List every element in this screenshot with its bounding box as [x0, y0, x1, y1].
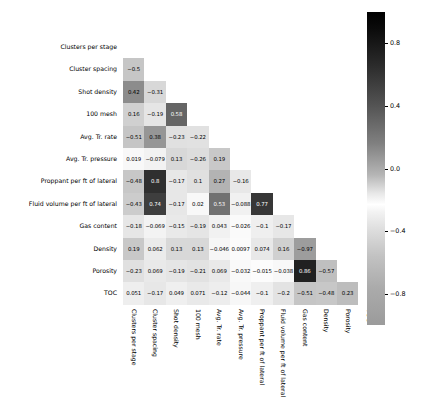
- heatmap-row: −0.480.8−0.170.10.27−0.16: [123, 170, 358, 192]
- heatmap-row: −0.18−0.069−0.15−0.190.043−0.026−0.1−0.1…: [123, 215, 358, 237]
- heatmap-cell-empty: [294, 215, 315, 237]
- heatmap-cell: −0.31: [144, 81, 165, 103]
- heatmap-cell: 0.19: [209, 148, 230, 170]
- correlation-heatmap-figure: Clusters per stageCluster spacingShot de…: [0, 0, 430, 413]
- column-label-slot: Density: [316, 306, 337, 406]
- column-label-slot: Shot density: [166, 306, 187, 406]
- heatmap-cell-empty: [273, 126, 294, 148]
- heatmap-cell-empty: [294, 148, 315, 170]
- heatmap-cell-empty: [294, 36, 315, 58]
- heatmap-cell-empty: [251, 36, 272, 58]
- heatmap-cell-empty: [273, 36, 294, 58]
- row-label: Clusters per stage: [0, 36, 120, 58]
- heatmap-cell-empty: [166, 58, 187, 80]
- column-label: Clusters per stage: [130, 309, 137, 366]
- row-label: Avg. Tr. pressure: [0, 148, 120, 170]
- colorbar-tick-label: 0.8: [390, 39, 400, 47]
- column-label-axis: Clusters per stageCluster spacingShot de…: [123, 306, 380, 406]
- heatmap-cell-empty: [187, 103, 208, 125]
- heatmap-row: [123, 36, 358, 58]
- heatmap-cell-empty: [230, 58, 251, 80]
- heatmap-cell-empty: [294, 81, 315, 103]
- colorbar-tick-label: −0.4: [390, 227, 406, 235]
- heatmap-cell-empty: [209, 81, 230, 103]
- heatmap-cell-empty: [273, 103, 294, 125]
- column-label: Porosity: [344, 309, 351, 334]
- heatmap-row: −0.510.38−0.23−0.22: [123, 126, 358, 148]
- heatmap-cell-empty: [294, 58, 315, 80]
- heatmap-cell-empty: [316, 81, 337, 103]
- heatmap-cell-empty: [251, 81, 272, 103]
- heatmap-cell-empty: [294, 126, 315, 148]
- colorbar-tick: [385, 43, 388, 44]
- column-label-slot: Porosity: [337, 306, 358, 406]
- row-label: Porosity: [0, 260, 120, 282]
- heatmap-row: −0.5: [123, 58, 358, 80]
- heatmap-cell-empty: [251, 103, 272, 125]
- heatmap-matrix: −0.50.42−0.310.16−0.190.58−0.510.38−0.23…: [123, 36, 358, 305]
- heatmap-cell-empty: [230, 81, 251, 103]
- heatmap-cell-empty: [337, 193, 358, 215]
- column-label: Proppant per ft of lateral: [259, 309, 266, 385]
- column-label-slot: Cluster spacing: [144, 306, 165, 406]
- heatmap-cell-empty: [166, 81, 187, 103]
- heatmap-cell-empty: [337, 260, 358, 282]
- row-label: Gas content: [0, 215, 120, 237]
- column-label: 100 mesh: [194, 309, 201, 340]
- column-label-slot: Fluid volume per ft of lateral: [273, 306, 294, 406]
- heatmap-cell-empty: [337, 170, 358, 192]
- heatmap-cell: 0.58: [166, 103, 187, 125]
- colorbar-gradient: [367, 12, 385, 325]
- column-label-slot: Avg. Tr. pressure: [230, 306, 251, 406]
- column-label-slot: Proppant per ft of lateral: [251, 306, 272, 406]
- heatmap-cell-empty: [337, 103, 358, 125]
- heatmap-cell-empty: [337, 126, 358, 148]
- heatmap-cell-empty: [251, 148, 272, 170]
- heatmap-cell-empty: [316, 103, 337, 125]
- heatmap-cell-empty: [230, 103, 251, 125]
- heatmap-cell-empty: [316, 238, 337, 260]
- column-label: Avg. Tr. rate: [216, 309, 223, 346]
- heatmap-cell-empty: [337, 148, 358, 170]
- column-label: Fluid volume per ft of lateral: [280, 309, 287, 397]
- row-label: Shot density: [0, 81, 120, 103]
- heatmap-row: −0.230.069−0.19−0.210.069−0.032−0.015−0.…: [123, 260, 358, 282]
- heatmap-cell-empty: [273, 148, 294, 170]
- heatmap-cell-empty: [316, 148, 337, 170]
- colorbar-tick: [385, 169, 388, 170]
- row-label: TOC: [0, 282, 120, 304]
- heatmap-cell-empty: [251, 170, 272, 192]
- heatmap-row: 0.42−0.31: [123, 81, 358, 103]
- heatmap-cell-empty: [144, 58, 165, 80]
- column-label-slot: Clusters per stage: [123, 306, 144, 406]
- colorbar-tick-label: −0.8: [390, 290, 406, 298]
- heatmap-row: 0.190.0620.130.13−0.0460.00970.0740.16−0…: [123, 238, 358, 260]
- heatmap-cell-empty: [316, 170, 337, 192]
- heatmap-row: 0.019−0.0790.13−0.260.19: [123, 148, 358, 170]
- row-label: Proppant per ft of lateral: [0, 170, 120, 192]
- row-label: Avg. Tr. rate: [0, 126, 120, 148]
- heatmap-cell-empty: [209, 103, 230, 125]
- column-label-slot: Avg. Tr. rate: [209, 306, 230, 406]
- heatmap-cell-empty: [187, 36, 208, 58]
- heatmap-cell: −0.97: [294, 238, 315, 260]
- colorbar-tick-label: 0.0: [390, 165, 400, 173]
- colorbar-tick: [385, 231, 388, 232]
- heatmap-cell-empty: [316, 58, 337, 80]
- column-label: Density: [323, 309, 330, 333]
- heatmap-cell-empty: [294, 103, 315, 125]
- heatmap-row: −0.430.74−0.170.020.53−0.0880.77: [123, 193, 358, 215]
- heatmap-cell-empty: [337, 215, 358, 237]
- heatmap-cell-empty: [294, 170, 315, 192]
- heatmap-cell-empty: [123, 36, 144, 58]
- heatmap-cell-empty: [230, 126, 251, 148]
- heatmap-cell-empty: [316, 215, 337, 237]
- heatmap-cell-empty: [294, 193, 315, 215]
- column-label: Cluster spacing: [152, 309, 159, 357]
- heatmap-cell-empty: [209, 126, 230, 148]
- heatmap-cell-empty: [316, 36, 337, 58]
- heatmap-cell-empty: [273, 170, 294, 192]
- row-label-axis: Clusters per stageCluster spacingShot de…: [0, 36, 120, 305]
- column-label: Avg. Tr. pressure: [237, 309, 244, 360]
- heatmap-cell: −0.16: [230, 170, 251, 192]
